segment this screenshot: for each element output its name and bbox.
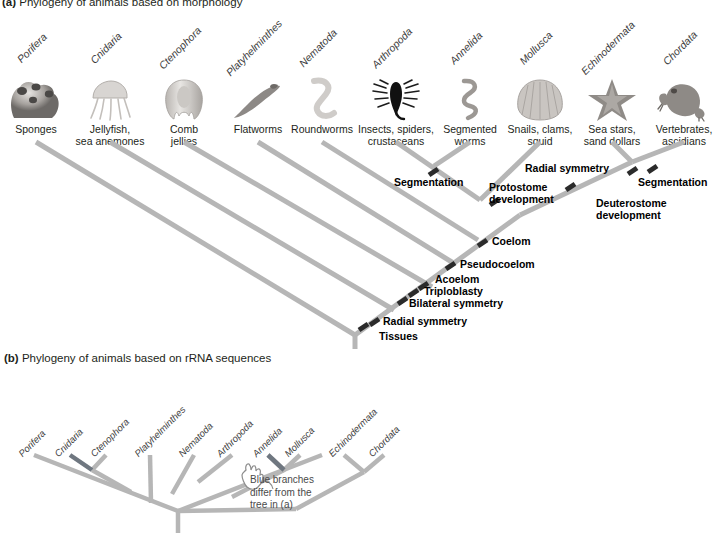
branch-b-platyhelminthes — [150, 455, 151, 503]
branch-b-nematoda — [172, 455, 194, 494]
phylogeny-tree-b — [0, 0, 726, 539]
branch-b-porifera — [34, 455, 178, 511]
figure-root: (a) Phylogeny of animals based on morpho… — [0, 0, 726, 539]
branch-b-echinodermata — [344, 455, 364, 472]
branch-b-annelida-highlight — [268, 455, 284, 470]
branch-b-chordata — [364, 455, 384, 472]
panel-b-note: Blue branches differ from the tree in (a… — [250, 474, 314, 512]
branch-b-arthropoda — [198, 455, 232, 482]
branch-b-cnidaria-highlight — [70, 455, 92, 470]
branch-b-ctenophora — [92, 455, 106, 470]
